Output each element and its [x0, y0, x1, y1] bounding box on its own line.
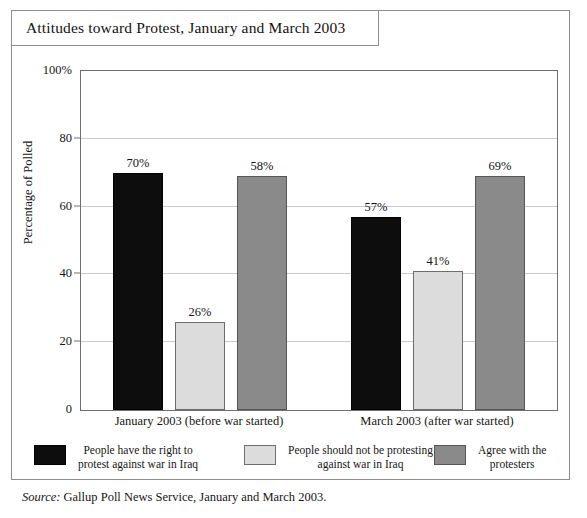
legend-item: People should not be protesting against …	[244, 444, 433, 471]
bar: 70%	[113, 173, 163, 410]
legend-label: People should not be protesting against …	[288, 444, 433, 471]
bar-value-label: 70%	[127, 156, 150, 171]
bar-value-label: 57%	[365, 200, 388, 215]
bar: 58%	[237, 176, 287, 410]
source-note: Source: Gallup Poll News Service, Januar…	[22, 490, 326, 505]
legend-label: People have the right to protest against…	[78, 444, 198, 471]
legend-item: Agree with the protesters	[434, 444, 546, 471]
bar: 41%	[413, 271, 463, 410]
y-axis-tick-labels: 020406080100%	[0, 70, 78, 411]
y-axis-tick-label: 40	[8, 266, 78, 281]
chart-plot-area: 70%26%58%57%41%69%	[80, 70, 558, 411]
y-axis-tick-label: 100%	[8, 63, 78, 78]
bar: 26%	[175, 322, 225, 410]
chart-legend: People have the right to protest against…	[34, 444, 554, 478]
gridline	[81, 138, 557, 139]
y-axis-tick-label: 80	[8, 130, 78, 145]
bar: 69%	[475, 176, 525, 410]
bar-value-label: 69%	[489, 159, 512, 174]
y-axis-title: Percentage of Polled	[21, 103, 36, 283]
page-title: Attitudes toward Protest, January and Ma…	[26, 19, 345, 37]
bar: 57%	[351, 217, 401, 410]
x-axis-category-label: March 2003 (after war started)	[360, 414, 513, 429]
y-axis-tick-label: 20	[8, 334, 78, 349]
y-axis-tick-label: 60	[8, 198, 78, 213]
bar-value-label: 58%	[251, 159, 274, 174]
legend-item: People have the right to protest against…	[34, 444, 198, 471]
legend-swatch	[34, 445, 66, 465]
source-text: Gallup Poll News Service, January and Ma…	[60, 490, 326, 504]
x-axis-category-label: January 2003 (before war started)	[115, 414, 284, 429]
bar-value-label: 41%	[427, 254, 450, 269]
legend-swatch	[434, 445, 466, 465]
legend-label: Agree with the protesters	[478, 444, 546, 471]
source-label: Source:	[22, 490, 60, 504]
legend-swatch	[244, 445, 276, 465]
chart-title-box: Attitudes toward Protest, January and Ma…	[11, 10, 379, 46]
y-axis-tick-label: 0	[8, 402, 78, 417]
x-axis-category-labels: January 2003 (before war started)March 2…	[80, 414, 558, 436]
bar-value-label: 26%	[189, 305, 212, 320]
